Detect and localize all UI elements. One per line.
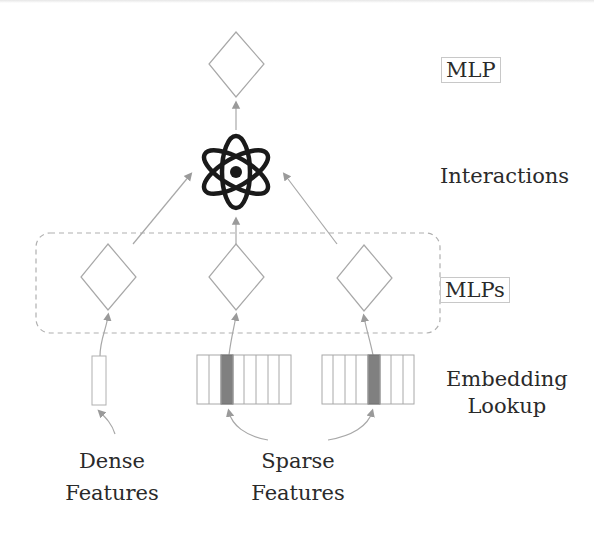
interactions-label: Interactions: [440, 164, 569, 188]
mlps-label: MLPs: [440, 277, 510, 303]
arrow-dense-mlp-to-interaction: [133, 175, 190, 244]
sparse-features-label: Sparse Features: [248, 445, 348, 509]
arrow-embedding2-to-mlp: [364, 317, 373, 355]
arrow-dense-features-to-vector: [100, 412, 115, 434]
atom-icon: [198, 136, 274, 208]
dense-features-label: Dense Features: [62, 445, 162, 509]
embedding-table-1-selected-row: [221, 355, 233, 404]
arrow-embedding1-to-mlp: [229, 316, 236, 355]
embedding-table-2-selected-row: [368, 355, 380, 404]
sparse-mlp-diamond-1: [209, 244, 264, 310]
mlps-group-box: [36, 233, 440, 333]
dense-mlp-diamond: [81, 244, 136, 310]
mlp-label: MLP: [441, 57, 501, 83]
dense-label-line2: Features: [62, 477, 162, 509]
sparse-label-line1: Sparse: [248, 445, 348, 477]
arrow-sparse-features-to-embedding1: [229, 412, 268, 440]
arrow-dense-vector-to-mlp: [100, 316, 108, 356]
dense-feature-vector: [92, 356, 106, 405]
arrow-sparse-features-to-embedding2: [328, 412, 372, 440]
sparse-mlp-diamond-2: [337, 245, 392, 311]
embedding-label-line1: Embedding: [446, 366, 568, 393]
embedding-table-2: [322, 355, 414, 404]
embedding-table-1: [197, 355, 291, 404]
embedding-lookup-label: Embedding Lookup: [446, 366, 568, 420]
arrow-sparse-mlp2-to-interaction: [285, 175, 337, 244]
top-mlp-diamond: [209, 32, 264, 97]
sparse-label-line2: Features: [248, 477, 348, 509]
dense-label-line1: Dense: [62, 445, 162, 477]
embedding-label-line2: Lookup: [446, 393, 568, 420]
